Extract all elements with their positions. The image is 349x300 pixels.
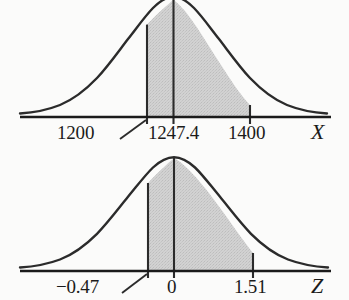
tick-label-x-upper: 1400 (228, 122, 265, 144)
leader-line-neg047 (122, 274, 147, 293)
chart-panel-x: 1200 1247.4 1400 X (0, 0, 349, 150)
axis-variable-z: Z (311, 273, 323, 299)
tick-label-z-mean: 0 (167, 276, 176, 298)
axis-variable-x: X (311, 119, 324, 145)
chart-panel-z: −0.47 0 1.51 Z (0, 150, 349, 300)
tick-label-z-lower: −0.47 (56, 276, 99, 298)
tick-label-x-lower: 1200 (57, 122, 94, 144)
leader-line-1200 (120, 120, 146, 139)
tick-label-z-upper: 1.51 (234, 276, 266, 298)
tick-label-x-mean: 1247.4 (148, 122, 199, 144)
shaded-area-z (148, 159, 253, 271)
normal-distribution-figure: 1200 1247.4 1400 X (0, 0, 349, 300)
